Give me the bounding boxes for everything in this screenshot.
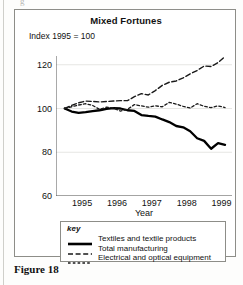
y-tick-label: 120: [28, 60, 52, 70]
page-artifact-glyph: g: [20, 0, 25, 6]
legend-label: Total manufacturing: [98, 244, 168, 253]
legend-line-swatch: [67, 244, 93, 253]
series-line: [65, 56, 225, 108]
x-tick-label: 1999: [212, 198, 232, 208]
x-tick-label: 1996: [107, 198, 127, 208]
index-base-note: Index 1995 = 100: [29, 31, 95, 41]
chart-legend: key Textiles and textile productsTotal m…: [60, 221, 226, 262]
series-line: [65, 108, 225, 149]
gridlines: [56, 65, 232, 196]
legend-line-swatch: [67, 234, 93, 243]
x-tick-label: 1995: [72, 198, 92, 208]
figure-caption: Figure 18: [14, 263, 59, 275]
plot-area: 6080100120 19951996199719981999: [56, 56, 232, 196]
legend-title: key: [67, 224, 80, 233]
legend-label: Textiles and textile products: [98, 234, 196, 243]
legend-item: Electrical and optical equipment: [67, 253, 211, 262]
y-tick-label: 60: [28, 191, 52, 201]
legend-item: Textiles and textile products: [67, 234, 196, 243]
x-axis-title: Year: [56, 208, 232, 218]
figure-panel: Mixed Fortunes Index 1995 = 100 60801001…: [14, 9, 236, 257]
legend-item: Total manufacturing: [67, 244, 168, 253]
y-tick-label: 80: [28, 147, 52, 157]
y-tick-label: 100: [28, 104, 52, 114]
page-margin-rule: [3, 0, 4, 285]
chart-plot-svg: [56, 56, 232, 196]
x-tick-label: 1998: [177, 198, 197, 208]
chart-title: Mixed Fortunes: [15, 15, 237, 26]
legend-line-swatch: [67, 253, 93, 262]
x-tick-label: 1997: [142, 198, 162, 208]
series-line: [65, 102, 225, 111]
series-paths: [65, 56, 225, 148]
legend-label: Electrical and optical equipment: [98, 253, 211, 262]
